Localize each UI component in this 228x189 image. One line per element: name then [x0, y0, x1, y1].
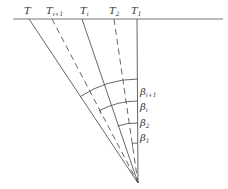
arc-beta-i-plus-1	[81, 79, 139, 97]
label-T-i: Ti	[80, 5, 89, 17]
label-beta-1: β1	[139, 132, 150, 144]
arc-beta-2	[118, 123, 139, 126]
label-beta-2: β2	[139, 117, 150, 129]
ray-T-i-plus-1	[52, 19, 138, 183]
label-beta-i-plus-1: βi+1	[139, 86, 157, 98]
label-T-i-plus-1: Ti+1	[46, 5, 63, 17]
arc-beta-i	[100, 101, 139, 111]
arc-beta-1	[133, 143, 139, 144]
label-T-1: T1	[131, 5, 142, 17]
label-T-2: T2	[109, 5, 120, 17]
ray-T	[29, 19, 138, 183]
label-beta-i: βi	[139, 101, 148, 113]
label-T: T	[24, 5, 32, 16]
fan-diagram: T Ti+1 Ti T2 T1 βi+1 βi β2 β1	[0, 0, 228, 189]
